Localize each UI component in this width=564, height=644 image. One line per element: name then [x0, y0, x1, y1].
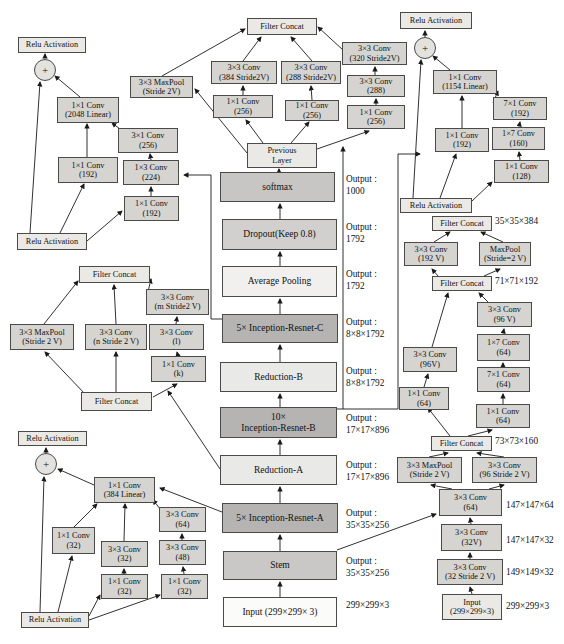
node-conv128: 1×1 Conv(128) — [494, 160, 549, 183]
node-conv2048: 1×1 Conv(2048 Linear) — [57, 97, 119, 123]
inception-resnet-architecture-diagram: Relu Activation+1×1 Conv(2048 Linear)1×1… — [0, 0, 564, 644]
node-c96s2: 3×3 Conv(96 Stride 2 V) — [472, 457, 537, 483]
label-out-avg: Output :1792 — [346, 269, 377, 292]
node-fc-ra-bot: Filter Concat — [81, 392, 152, 411]
node-conv64a: 3×3 Conv(64) — [159, 507, 206, 532]
label-shp-c64: 147×147×64 — [506, 500, 554, 512]
node-conv224-13: 1×3 Conv(224) — [123, 160, 179, 185]
node-softmax-main: softmax — [220, 172, 335, 202]
node-input-s: Input(299×299×3) — [442, 594, 502, 620]
node-mp-ra: 3×3 MaxPool(Stride 2 V) — [10, 324, 74, 350]
node-irb-main: 10×Inception-Resnet-B — [220, 407, 337, 438]
node-conv32m3: 3×3 Conv(32) — [101, 541, 148, 567]
node-mp-rb: 3×3 MaxPool(Stride 2V) — [130, 76, 193, 98]
node-c96vl: 3×3 Conv(96V) — [403, 347, 457, 372]
node-fc-s2: Filter Concat — [432, 276, 492, 291]
node-relu-c-top: Relu Activation — [18, 37, 86, 53]
node-fc-ra-top: Filter Concat — [79, 266, 150, 283]
node-c7164: 7×1 Conv(64) — [477, 367, 530, 392]
node-c96vr: 3×3 Conv(96 V) — [477, 302, 532, 327]
node-relu-a-bot: Relu Activation — [21, 612, 89, 628]
node-c192v: 3×3 Conv(192 V) — [404, 242, 458, 266]
node-c256c: 1×1 Conv(256) — [347, 105, 405, 129]
node-ira-main: 5× Inception-Resnet-A — [222, 503, 338, 533]
node-conv192b-c: 1×1 Conv(192) — [124, 196, 179, 221]
node-c288s: 3×3 Conv(288 Stride2V) — [281, 61, 341, 84]
label-out-irc: Output :8×8×1792 — [346, 317, 384, 340]
node-relu-a-top: Relu Activation — [18, 431, 87, 446]
node-relu-c-bot: Relu Activation — [17, 233, 87, 250]
node-relu-b-top: Relu Activation — [400, 12, 472, 29]
node-avgpool-main: Average Pooling — [222, 266, 337, 297]
label-shp-fc1: 35×35×384 — [495, 216, 538, 228]
node-redb-main: Reduction-B — [220, 362, 337, 392]
node-c256a: 1×1 Conv(256) — [213, 95, 273, 118]
node-c32v: 3×3 Conv(32V) — [441, 524, 502, 551]
node-c64s: 3×3 Conv(64) — [439, 489, 502, 516]
node-conv48: 3×3 Conv(48) — [159, 540, 206, 565]
label-shp-input: 299×299×3 — [506, 601, 549, 613]
node-relu-b-bot: Relu Activation — [400, 198, 472, 213]
label-out-irb: Output :17×17×896 — [346, 413, 389, 436]
node-dropout-main: Dropout(Keep 0.8) — [222, 219, 337, 250]
node-c256b: 1×1 Conv(256) — [285, 100, 339, 121]
node-conv71-192: 7×1 Conv(192) — [493, 97, 547, 120]
node-c1164r: 1×1 Conv(64) — [476, 404, 530, 428]
node-conv384: 1×1 Conv(384 Linear) — [94, 477, 155, 503]
label-shp-c32v: 147×147×32 — [506, 535, 554, 547]
node-mp-s2: 3×3 MaxPool(Stride 2 V) — [397, 457, 462, 483]
node-conv192l-c: 1×1 Conv(192) — [58, 157, 118, 183]
label-out-stem: Output :35×35×256 — [346, 556, 389, 579]
label-out-ira: Output :35×35×256 — [346, 508, 389, 531]
node-conv-k: 1×1 Conv(k) — [151, 356, 206, 382]
node-conv256-31: 3×1 Conv(256) — [118, 128, 178, 153]
node-conv32r: 1×1 Conv(32) — [161, 574, 208, 599]
node-conv-n: 3×3 Conv(n Stride 2 V) — [85, 324, 147, 350]
label-out-dropout: Output :1792 — [346, 222, 377, 245]
node-mp-s: MaxPool(Stride=2 V) — [479, 242, 531, 266]
node-plus-b: + — [414, 37, 436, 59]
node-c288: 3×3 Conv(288) — [347, 75, 405, 97]
node-conv32m1: 1×1 Conv(32) — [101, 574, 148, 599]
node-conv-l: 3×3 Conv(l) — [149, 324, 204, 350]
node-prev-rb: PreviousLayer — [247, 143, 317, 168]
node-plus-c: + — [34, 59, 56, 81]
label-shp-c32s: 149×149×32 — [506, 567, 554, 579]
node-conv1154: 1×1 Conv(1154 Linear) — [433, 70, 497, 94]
node-c1164l: 1×1 Conv(64) — [399, 387, 449, 410]
label-out-input: 299×299×3 — [346, 600, 389, 612]
node-c320s: 3×3 Conv(320 Stride2V) — [342, 42, 407, 65]
node-conv192-b: 1×1 Conv(192) — [435, 128, 489, 152]
label-out-reda: Output :17×17×896 — [346, 460, 389, 483]
node-reda-main: Reduction-A — [220, 455, 337, 485]
node-plus-a: + — [35, 453, 57, 475]
label-shp-fc3: 73×73×160 — [495, 436, 538, 448]
node-fc-s3: Filter Concat — [431, 436, 492, 451]
label-shp-fc2: 71×71×192 — [495, 276, 538, 288]
label-out-softmax: Output :1000 — [346, 174, 377, 197]
label-out-redb: Output :8×8×1792 — [346, 366, 384, 389]
node-c32s2: 3×3 Conv(32 Stride 2 V) — [437, 559, 503, 585]
node-stem-main: Stem — [223, 551, 337, 580]
node-c1764: 1×7 Conv(64) — [477, 334, 530, 361]
node-input-main: Input (299×299× 3) — [223, 597, 337, 627]
node-c384s: 3×3 Conv(384 Stride2V) — [211, 61, 277, 84]
node-irc-main: 5× Inception-Resnet-C — [222, 314, 338, 343]
node-fc-s1: Filter Concat — [432, 216, 492, 231]
node-conv32l: 1×1 Conv(32) — [52, 527, 95, 554]
node-conv17-160: 1×7 Conv(160) — [492, 127, 545, 150]
node-conv-m: 3×3 Conv(m Stride2 V) — [146, 289, 209, 315]
node-fc-rb: Filter Concat — [247, 18, 317, 35]
